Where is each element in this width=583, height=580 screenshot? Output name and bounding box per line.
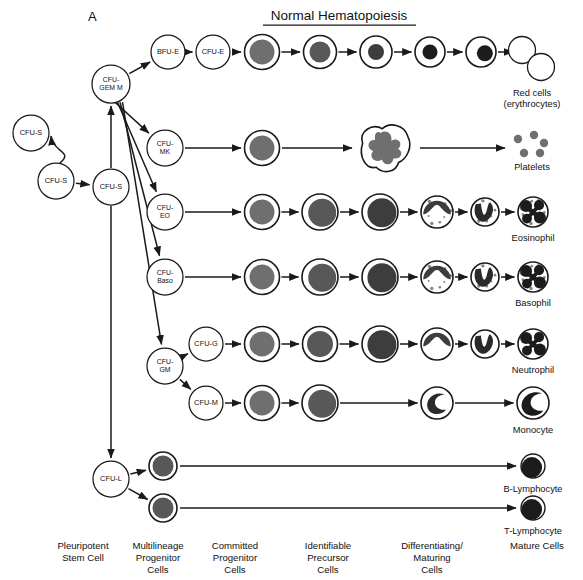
progenitor-node-cfu-s-renew[interactable]: CFU-S [13, 115, 49, 151]
progenitor-node-cfu-baso[interactable]: CFU-Baso [147, 259, 183, 295]
hematopoiesis-diagram: A Normal Hematopoiesis Red cells(erythro… [0, 0, 583, 580]
column-label-line: Cells [317, 564, 339, 575]
column-label-pleuripotent: PleuripotentStem Cell [57, 540, 109, 563]
cell-reticulocyte[interactable] [466, 37, 496, 67]
cell-nucleus [310, 42, 331, 63]
mature-cell-monocyte[interactable] [517, 387, 549, 419]
mature-cell-label-b-lymphocyte: B-Lymphocyte [503, 484, 562, 494]
cell-eo-metamyelocyte[interactable] [421, 196, 453, 228]
cell-nucleus [250, 136, 275, 161]
column-label-line: Committed [212, 540, 258, 551]
node-label: BFU-E [157, 47, 179, 56]
mature-cell-erythrocytes[interactable] [509, 37, 555, 81]
lineage-t-lymphoid: T-Lymphocyte [149, 494, 562, 536]
cell-t-lymphoblast[interactable] [149, 494, 177, 522]
cell-immature-monocyte[interactable] [421, 387, 453, 419]
mature-cell-basophil[interactable] [518, 262, 548, 292]
node-label: GM [159, 366, 170, 373]
lineage-basophilic: Basophil [245, 259, 551, 308]
progenitor-node-cfu-eo[interactable]: CFU-EO [147, 194, 183, 230]
cell-baso-metamyelocyte[interactable] [421, 261, 453, 293]
column-label-mature: Mature Cells [510, 540, 564, 551]
mature-cell-neutrophil[interactable] [518, 329, 548, 359]
column-label-differentiating: Differentiating/MaturingCells [401, 540, 463, 575]
cell-nucleus [308, 199, 336, 227]
cell-proerythroblast[interactable] [245, 35, 280, 70]
cell-neut-band[interactable] [471, 330, 499, 358]
figure-title: Normal Hematopoiesis [263, 8, 416, 25]
cell-nucleus [250, 265, 275, 290]
progenitor-node-bfu-e[interactable]: BFU-E [151, 35, 185, 69]
cell-nucleus [477, 45, 493, 61]
progenitor-node-cfu-g[interactable]: CFU-G [189, 327, 223, 361]
column-label-identifiable: IdentifiablePrecursorCells [305, 540, 351, 575]
mature-cell-label-line: T-Lymphocyte [504, 526, 562, 536]
cell-eo-myelocyte[interactable] [362, 194, 398, 230]
cell-eo-promyelocyte[interactable] [302, 194, 338, 230]
arrow-cfus-mid-to-main [76, 183, 90, 185]
cell-eo-myeloblast[interactable] [245, 195, 280, 230]
cell-baso-band[interactable] [471, 263, 499, 291]
progenitor-node-cfu-mk[interactable]: CFU-MK [147, 130, 183, 166]
column-labels: PleuripotentStem CellMultilineageProgeni… [57, 540, 564, 575]
cytoplasmic-granule [430, 222, 433, 225]
cell-neut-myelocyte[interactable] [362, 326, 398, 362]
mature-cell-label-basophil: Basophil [515, 298, 551, 308]
mature-cell-label-line: Neutrophil [512, 365, 554, 375]
mature-cell-eosinophil[interactable] [518, 197, 548, 227]
column-label-line: Differentiating/ [401, 540, 463, 551]
cell-baso-myeloblast[interactable] [245, 260, 280, 295]
progenitor-node-cfu-s-main[interactable]: CFU-S [93, 169, 129, 205]
progenitor-node-cfu-l[interactable]: CFU-L [93, 461, 129, 497]
column-label-line: Cells [421, 564, 443, 575]
cell-baso-promyelocyte[interactable] [302, 259, 338, 295]
mature-cell-platelets[interactable] [514, 131, 548, 157]
cell-megakaryocyte[interactable] [361, 125, 409, 172]
column-label-line: Cells [147, 564, 169, 575]
node-label: CFU-E [202, 47, 225, 56]
mature-cell-label-line: Red cells [513, 88, 552, 98]
column-label-line: Multilineage [132, 540, 183, 551]
node-label: CFU-S [100, 182, 123, 191]
progenitor-node-cfu-e[interactable]: CFU-E [196, 35, 230, 69]
arrow-cful-to-blymphoblast [130, 470, 146, 474]
lineage-eosinophilic: Eosinophil [245, 194, 555, 243]
progenitor-node-cfu-gm[interactable]: CFU-GM [147, 348, 183, 384]
cell-nucleus [367, 198, 396, 227]
node-label: CFU- [157, 204, 173, 211]
cell-orthochromatic-erythroblast[interactable] [415, 37, 445, 67]
cell-nucleus [308, 390, 336, 418]
mature-cell-label-line: Platelets [514, 162, 550, 172]
progenitor-node-cfu-s-mid[interactable]: CFU-S [38, 163, 74, 199]
lineage-b-lymphoid: B-Lymphocyte [149, 452, 563, 494]
cell-megakaryoblast[interactable] [245, 131, 280, 166]
cell-nucleus [521, 499, 542, 520]
cell-b-lymphoblast[interactable] [149, 452, 177, 480]
erythrocyte [528, 54, 555, 81]
cell-neut-myeloblast[interactable] [245, 327, 280, 362]
progenitor-node-cfu-m[interactable]: CFU-M [189, 386, 223, 420]
cell-polychromatic-erythroblast[interactable] [360, 36, 392, 68]
mature-cell-label-line: Basophil [515, 298, 551, 308]
cell-eo-band[interactable] [471, 198, 499, 226]
mature-cell-t-lymphocyte[interactable] [521, 496, 545, 520]
cell-nucleus [250, 40, 275, 65]
column-label-line: Mature Cells [510, 540, 564, 551]
node-label: CFU-L [100, 474, 122, 483]
progenitor-node-cfu-gemm[interactable]: CFU-GEM M [92, 65, 130, 103]
cell-promonocyte[interactable] [302, 385, 338, 421]
node-label: Baso [157, 277, 173, 284]
cell-membrane [421, 387, 453, 419]
cell-nucleus [308, 264, 336, 292]
figure-title-text: Normal Hematopoiesis [271, 8, 408, 23]
cell-neut-metamyelocyte[interactable] [421, 328, 453, 360]
cell-basophilic-erythroblast[interactable] [304, 36, 337, 69]
column-label-line: Progenitor [213, 552, 258, 563]
cell-monoblast[interactable] [245, 386, 280, 421]
cell-neut-promyelocyte[interactable] [303, 327, 338, 362]
column-label-committed: CommittedProgenitorCells [212, 540, 258, 575]
column-label-multilineage: MultilineageProgenitorCells [132, 540, 183, 575]
cell-baso-myelocyte[interactable] [362, 259, 398, 295]
node-label: MK [160, 148, 171, 155]
mature-cell-b-lymphocyte[interactable] [521, 454, 545, 478]
